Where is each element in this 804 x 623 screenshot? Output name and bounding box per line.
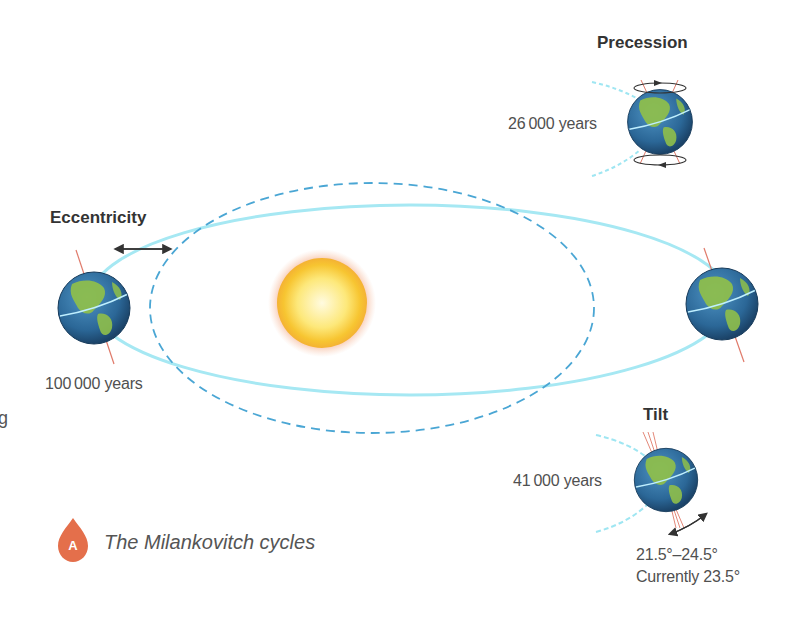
precession-period: 26 000 years xyxy=(508,115,597,133)
eccentricity-title: Eccentricity xyxy=(50,208,146,228)
tilt-range: 21.5°–24.5° xyxy=(636,546,718,564)
earth-icon-eccentricity xyxy=(58,250,130,364)
stray-text-fragment: g xyxy=(0,408,8,429)
precession-title: Precession xyxy=(597,33,688,53)
milankovitch-diagram xyxy=(0,0,804,623)
earth-icon-aphelion xyxy=(686,248,758,362)
tilt-figure xyxy=(596,432,706,534)
caption-badge: A xyxy=(60,528,86,562)
figure-caption: The Milankovitch cycles xyxy=(104,531,315,554)
tilt-period: 41 000 years xyxy=(513,472,602,490)
eccentricity-period: 100 000 years xyxy=(45,375,143,393)
tilt-title: Tilt xyxy=(643,405,668,425)
tilt-current: Currently 23.5° xyxy=(636,568,740,586)
caption-badge-letter: A xyxy=(60,538,86,553)
eccentric-orbit xyxy=(90,205,730,395)
sun-icon xyxy=(268,249,376,357)
precession-figure xyxy=(592,80,692,176)
